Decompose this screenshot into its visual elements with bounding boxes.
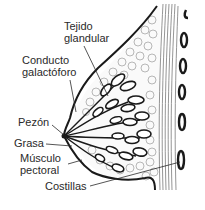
ribs: [178, 10, 188, 169]
label-costillas: Costillas: [45, 180, 87, 192]
label-conducto-galactoforo: Conducto galactóforo: [22, 54, 76, 78]
label-pezon: Pezón: [18, 116, 49, 128]
nipple: [62, 134, 67, 139]
label-tejido-glandular: Tejido glandular: [64, 20, 109, 44]
label-musculo-pectoral: Músculo pectoral: [20, 152, 61, 176]
pectoral-muscle: [159, 4, 178, 190]
label-grasa: Grasa: [14, 137, 44, 149]
